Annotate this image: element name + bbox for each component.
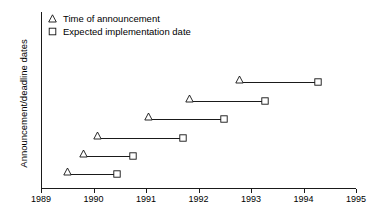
timeline-segment (240, 82, 318, 83)
x-tick-label: 1992 (179, 194, 219, 205)
timeline-segment (190, 101, 265, 102)
timeline-segment (149, 119, 224, 120)
triangle-open-icon (63, 167, 72, 176)
x-tick-label: 1990 (74, 194, 114, 205)
x-tick-mark (251, 189, 252, 193)
x-tick-mark (304, 189, 305, 193)
triangle-open-icon (93, 131, 102, 140)
timeline-segment (83, 156, 133, 157)
x-tick-mark (146, 189, 147, 193)
x-tick-label: 1995 (336, 194, 376, 205)
x-tick-label: 1989 (21, 194, 61, 205)
square-open-icon (129, 152, 137, 160)
triangle-open-icon (235, 75, 244, 84)
legend-label-announcement: Time of announcement (63, 13, 160, 24)
timeline-segment (97, 138, 183, 139)
x-tick-label: 1994 (284, 194, 324, 205)
timeline-segment (67, 174, 117, 175)
x-tick-mark (94, 189, 95, 193)
x-tick-mark (41, 189, 42, 193)
square-open-icon (261, 97, 269, 105)
y-axis-line (41, 12, 42, 189)
triangle-open-icon (48, 14, 57, 23)
x-tick-label: 1991 (126, 194, 166, 205)
triangle-open-icon (79, 149, 88, 158)
square-open-icon (113, 170, 121, 178)
x-tick-mark (199, 189, 200, 193)
square-open-icon (179, 134, 187, 142)
triangle-open-icon (185, 94, 194, 103)
y-axis-title: Announcement/deadline dates (18, 24, 29, 184)
triangle-open-icon (144, 112, 153, 121)
square-open-icon (314, 78, 322, 86)
square-open-icon (48, 27, 57, 36)
timeline-chart: Announcement/deadline dates Time of anno… (0, 0, 378, 223)
x-tick-label: 1993 (231, 194, 271, 205)
x-tick-mark (356, 189, 357, 193)
legend-label-implementation: Expected implementation date (63, 26, 191, 37)
square-open-icon (220, 115, 228, 123)
